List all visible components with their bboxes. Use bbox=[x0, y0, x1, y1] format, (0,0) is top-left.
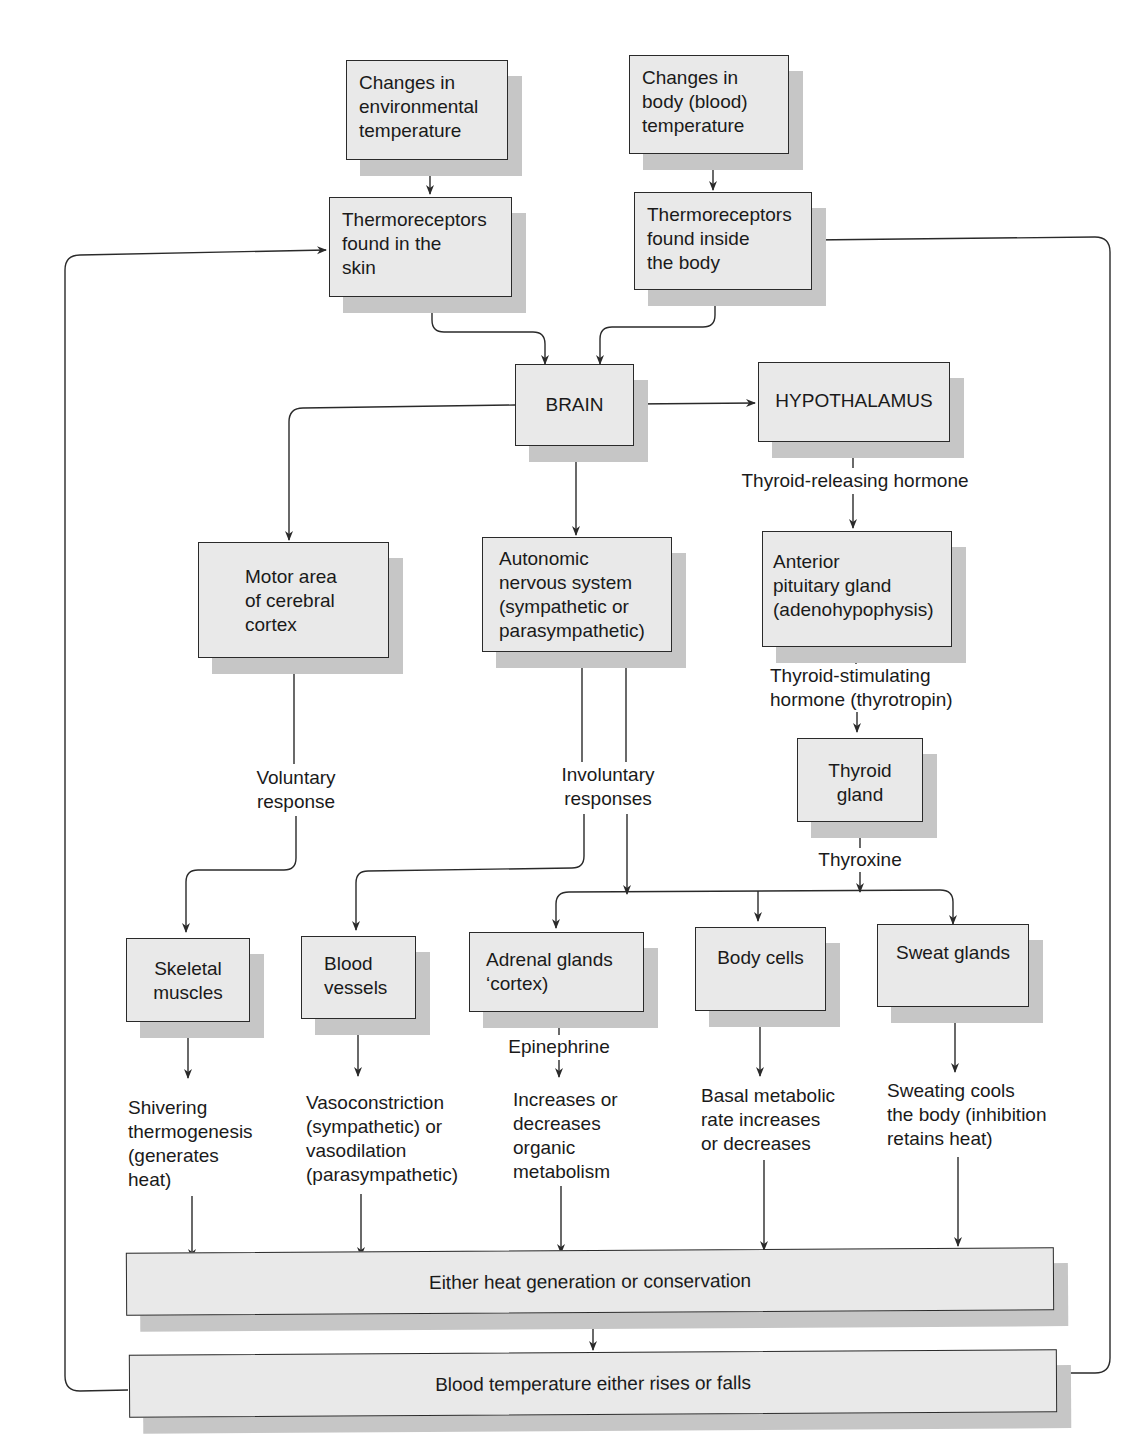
node-skeletal-muscles: Skeletal muscles bbox=[126, 938, 250, 1022]
node-adrenal-glands: Adrenal glands ‘cortex) bbox=[469, 932, 644, 1012]
node-autonomic-nervous-system: Autonomic nervous system (sympathetic or… bbox=[482, 537, 672, 652]
node-label: HYPOTHALAMUS bbox=[775, 389, 932, 413]
node-label: Either heat generation or conservation bbox=[429, 1269, 751, 1295]
node-label: Thyroid gland bbox=[828, 759, 891, 807]
node-thyroid-gland: Thyroid gland bbox=[797, 738, 923, 822]
node-label: Thermoreceptors found in the skin bbox=[342, 208, 487, 280]
node-label: Blood temperature either rises or falls bbox=[435, 1371, 751, 1397]
label-thyroxine: Thyroxine bbox=[818, 848, 901, 872]
node-body-cells: Body cells bbox=[695, 927, 826, 1011]
node-internal-thermoreceptors: Thermoreceptors found inside the body bbox=[634, 192, 812, 290]
node-label: Motor area of cerebral cortex bbox=[245, 565, 337, 637]
label-thyroid-stimulating-hormone: Thyroid-stimulating hormone (thyrotropin… bbox=[770, 664, 953, 712]
node-label: BRAIN bbox=[545, 393, 603, 417]
node-label: Thermoreceptors found inside the body bbox=[647, 203, 792, 275]
response-vasomotor: Vasoconstriction (sympathetic) or vasodi… bbox=[306, 1091, 458, 1187]
response-shivering: Shivering thermogenesis (generates heat) bbox=[128, 1096, 253, 1192]
node-brain: BRAIN bbox=[515, 364, 634, 446]
node-label: Changes in body (blood) temperature bbox=[642, 66, 748, 138]
node-motor-cortex: Motor area of cerebral cortex bbox=[198, 542, 389, 658]
node-hypothalamus: HYPOTHALAMUS bbox=[758, 362, 950, 442]
node-label: Sweat glands bbox=[896, 941, 1010, 965]
node-label: Body cells bbox=[717, 946, 804, 970]
connector-lines bbox=[0, 0, 1146, 1454]
thermoregulation-flowchart: Changes in environmental temperature Cha… bbox=[0, 0, 1146, 1454]
node-environmental-temperature: Changes in environmental temperature bbox=[346, 60, 508, 160]
response-sweating: Sweating cools the body (inhibition reta… bbox=[887, 1079, 1047, 1151]
node-label: Blood vessels bbox=[324, 952, 387, 1000]
node-blood-vessels: Blood vessels bbox=[301, 936, 416, 1019]
node-label: Anterior pituitary gland (adenohypophysi… bbox=[773, 550, 934, 622]
node-label: Changes in environmental temperature bbox=[359, 71, 478, 143]
label-involuntary-responses: Involuntary responses bbox=[562, 763, 655, 811]
response-basal-metabolic-rate: Basal metabolic rate increases or decrea… bbox=[701, 1084, 835, 1156]
response-organic-metabolism: Increases or decreases organic metabolis… bbox=[513, 1088, 618, 1184]
node-label: Autonomic nervous system (sympathetic or… bbox=[499, 547, 645, 643]
label-thyroid-releasing-hormone: Thyroid-releasing hormone bbox=[741, 469, 968, 493]
node-anterior-pituitary: Anterior pituitary gland (adenohypophysi… bbox=[762, 531, 952, 647]
node-skin-thermoreceptors: Thermoreceptors found in the skin bbox=[329, 197, 512, 297]
node-label: Adrenal glands ‘cortex) bbox=[486, 948, 613, 996]
node-label: Skeletal muscles bbox=[153, 957, 223, 1005]
node-heat-generation-or-conservation: Either heat generation or conservation bbox=[126, 1247, 1054, 1316]
node-sweat-glands: Sweat glands bbox=[877, 924, 1029, 1007]
label-voluntary-response: Voluntary response bbox=[256, 766, 335, 814]
node-blood-temperature-change: Blood temperature either rises or falls bbox=[129, 1349, 1057, 1418]
label-epinephrine: Epinephrine bbox=[508, 1035, 609, 1059]
node-body-temperature: Changes in body (blood) temperature bbox=[629, 55, 789, 154]
